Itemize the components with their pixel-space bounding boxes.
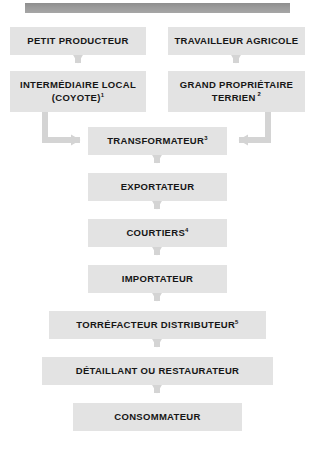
footnote-ref: 5 xyxy=(235,318,239,324)
node-label: EXPORTATEUR xyxy=(121,181,195,194)
node-label-line-2: TERRIEN2 xyxy=(212,92,261,105)
node-intermediaire-local[interactable]: INTERMÉDIAIRE LOCAL (COYOTE)1 xyxy=(10,71,146,112)
node-label: IMPORTATEUR xyxy=(122,273,194,286)
top-header-bar xyxy=(25,3,290,13)
node-petit-producteur[interactable]: PETIT PRODUCTEUR xyxy=(10,27,146,55)
node-label: TORRÉFACTEUR DISTRIBUTEUR5 xyxy=(76,319,238,332)
node-consommateur[interactable]: CONSOMMATEUR xyxy=(73,403,242,431)
node-courtiers[interactable]: COURTIERS4 xyxy=(88,219,227,247)
node-grand-proprietaire-terrien[interactable]: GRAND PROPRIÉTAIRE TERRIEN2 xyxy=(168,71,305,112)
node-label: TRAVAILLEUR AGRICOLE xyxy=(174,35,298,48)
node-label: PETIT PRODUCTEUR xyxy=(27,35,128,48)
node-label-line-2: (COYOTE)1 xyxy=(52,92,104,105)
node-label: CONSOMMATEUR xyxy=(114,411,200,424)
edge-proprietaire-to-transformateur xyxy=(239,112,268,140)
node-exportateur[interactable]: EXPORTATEUR xyxy=(88,173,227,201)
node-importateur[interactable]: IMPORTATEUR xyxy=(88,265,227,293)
node-transformateur[interactable]: TRANSFORMATEUR3 xyxy=(88,127,227,155)
node-torrefacteur-distributeur[interactable]: TORRÉFACTEUR DISTRIBUTEUR5 xyxy=(49,311,266,339)
node-label: COURTIERS4 xyxy=(126,227,188,240)
footnote-ref: 2 xyxy=(258,91,262,97)
footnote-ref: 3 xyxy=(204,134,208,140)
diagram-canvas: PETIT PRODUCTEUR TRAVAILLEUR AGRICOLE IN… xyxy=(0,0,315,449)
node-label: TRANSFORMATEUR3 xyxy=(107,135,207,148)
edge-intermediaire-to-transformateur xyxy=(45,112,80,140)
footnote-ref: 1 xyxy=(101,91,105,97)
node-label-line-1: INTERMÉDIAIRE LOCAL xyxy=(20,79,136,92)
node-detaillant-ou-restaurateur[interactable]: DÉTAILLANT OU RESTAURATEUR xyxy=(42,357,273,385)
node-label-line-1: GRAND PROPRIÉTAIRE xyxy=(180,79,293,92)
node-travailleur-agricole[interactable]: TRAVAILLEUR AGRICOLE xyxy=(168,27,305,55)
footnote-ref: 4 xyxy=(185,226,189,232)
node-label: DÉTAILLANT OU RESTAURATEUR xyxy=(76,365,239,378)
